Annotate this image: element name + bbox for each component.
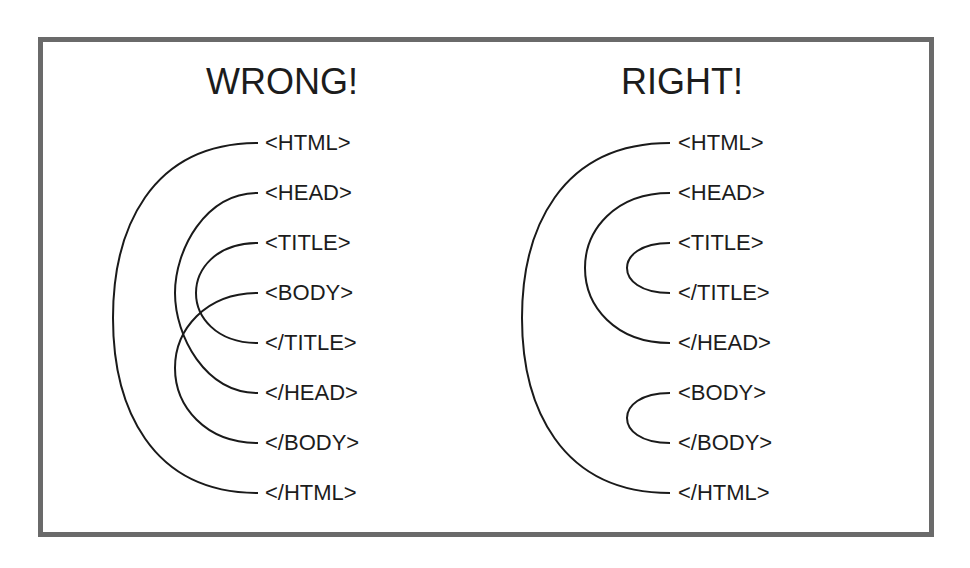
nesting-arcs [0, 0, 970, 568]
right-tag-1: <HTML> [678, 132, 764, 154]
wrong-tag-6: </HEAD> [265, 382, 358, 404]
wrong-tag-1: <HTML> [265, 132, 351, 154]
wrong-tag-8: </HTML> [265, 482, 357, 504]
right-title: RIGHT! [621, 64, 743, 100]
wrong-tag-3: <TITLE> [265, 232, 351, 254]
right-tag-7: </BODY> [678, 432, 772, 454]
wrong-tag-7: </BODY> [265, 432, 359, 454]
arc-wrong-body [175, 293, 258, 443]
arc-right-body [627, 393, 670, 443]
right-tag-3: <TITLE> [678, 232, 764, 254]
right-tag-4: </TITLE> [678, 282, 770, 304]
wrong-tag-2: <HEAD> [265, 182, 352, 204]
right-tag-5: </HEAD> [678, 332, 771, 354]
right-tag-8: </HTML> [678, 482, 770, 504]
wrong-title: WRONG! [206, 64, 358, 100]
wrong-tag-5: </TITLE> [265, 332, 357, 354]
wrong-tag-4: <BODY> [265, 282, 353, 304]
right-tag-6: <BODY> [678, 382, 766, 404]
arc-right-title [627, 243, 670, 293]
right-tag-2: <HEAD> [678, 182, 765, 204]
